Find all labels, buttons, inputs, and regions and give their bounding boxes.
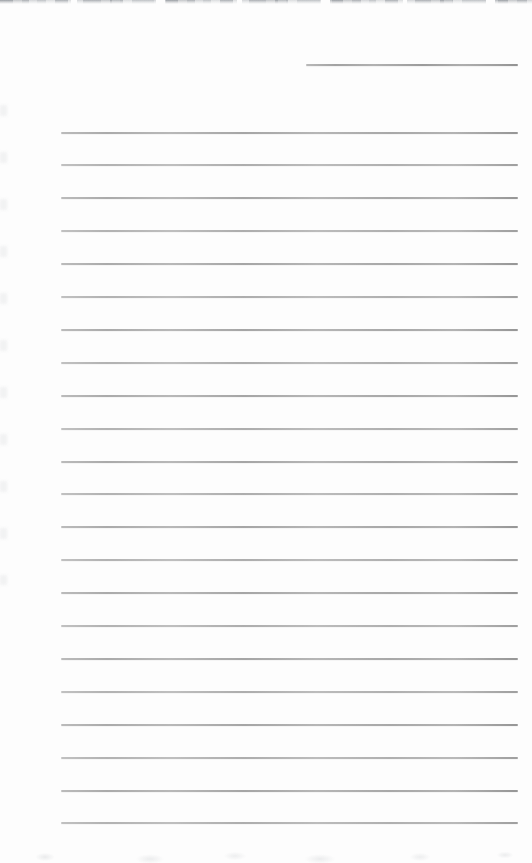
ruled-line [61,822,518,824]
ruled-line [61,132,518,134]
ruled-line [61,329,518,331]
ruled-line [61,790,518,792]
ruled-line [61,526,518,528]
ruled-line [61,691,518,693]
ruled-line [61,757,518,759]
ruled-line [61,164,518,166]
ruled-line [61,461,518,463]
ruled-lines-container [0,0,532,863]
ruled-line [61,559,518,561]
ruled-line [61,230,518,232]
ruled-line [61,395,518,397]
ruled-line [61,493,518,495]
ruled-line [61,296,518,298]
scanned-notebook-page [0,0,532,863]
ruled-line [61,263,518,265]
ruled-line [61,197,518,199]
ruled-line [61,428,518,430]
ruled-line [61,625,518,627]
ruled-line [61,724,518,726]
ruled-line [61,592,518,594]
bottom-edge-scan-smudges [0,843,532,863]
ruled-line [61,658,518,660]
left-edge-scan-smudges [0,105,7,585]
ruled-line [61,362,518,364]
